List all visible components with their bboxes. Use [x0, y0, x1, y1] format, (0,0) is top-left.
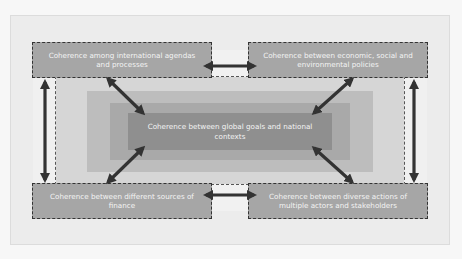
box-international-agendas: Coherence among international agendas an… [32, 42, 212, 78]
center-label: Coherence between global goals and natio… [128, 122, 332, 141]
box-label: Coherence between different sources of f… [33, 192, 211, 211]
box-sources-of-finance: Coherence between different sources of f… [32, 183, 212, 219]
box-label: Coherence between diverse actions of mul… [249, 192, 427, 211]
gap-bottom [211, 184, 249, 211]
box-economic-social-environmental: Coherence between economic, social and e… [248, 42, 428, 78]
center-box: Coherence between global goals and natio… [128, 113, 332, 150]
gap-right [404, 76, 427, 185]
box-label: Coherence among international agendas an… [33, 51, 211, 70]
gap-left [33, 76, 56, 185]
gap-top [211, 50, 249, 77]
box-label: Coherence between economic, social and e… [249, 51, 427, 70]
box-actors-stakeholders: Coherence between diverse actions of mul… [248, 183, 428, 219]
